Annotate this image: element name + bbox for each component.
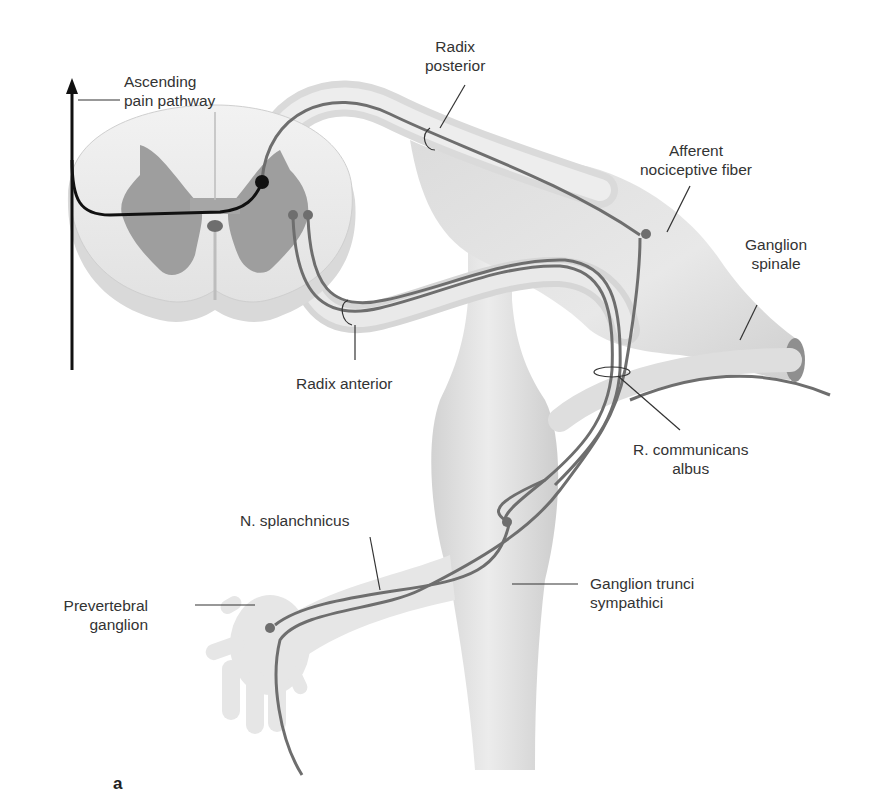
label-line: Afferent — [640, 141, 752, 160]
label-line: albus — [633, 459, 748, 478]
label-line: Ganglion — [745, 235, 807, 254]
label-line: Radix anterior — [296, 374, 393, 393]
label-line: R. communicans — [633, 440, 748, 459]
label-line: N. splanchnicus — [240, 511, 349, 530]
label-prevertebral-ganglion: Prevertebral ganglion — [44, 596, 148, 634]
label-line: Prevertebral — [44, 596, 148, 615]
label-afferent-nociceptive-fiber: Afferent nociceptive fiber — [640, 141, 752, 179]
nociception-sympathetic-diagram: Ascending pain pathway Radix posterior A… — [0, 0, 893, 812]
label-line: Radix — [425, 37, 485, 56]
label-ganglion-trunci-sympathici: Ganglion trunci sympathici — [590, 574, 694, 612]
label-ganglion-spinale: Ganglion spinale — [745, 235, 807, 273]
label-line: Ganglion trunci — [590, 574, 694, 593]
label-ascending-pain-pathway: Ascending pain pathway — [124, 72, 215, 110]
panel-letter: a — [113, 774, 122, 794]
label-line: posterior — [425, 56, 485, 75]
label-r-communicans-albus: R. communicans albus — [633, 440, 748, 478]
label-line: pain pathway — [124, 91, 215, 110]
label-line: ganglion — [44, 615, 148, 634]
label-line: spinale — [745, 254, 807, 273]
label-line: Ascending — [124, 72, 215, 91]
label-n-splanchnicus: N. splanchnicus — [240, 511, 349, 530]
label-line: sympathici — [590, 593, 694, 612]
label-radix-posterior: Radix posterior — [425, 37, 485, 75]
spinal-nerve — [560, 360, 790, 420]
label-radix-anterior: Radix anterior — [296, 374, 393, 393]
prevertebral-ganglion — [203, 555, 455, 734]
label-line: nociceptive fiber — [640, 160, 752, 179]
